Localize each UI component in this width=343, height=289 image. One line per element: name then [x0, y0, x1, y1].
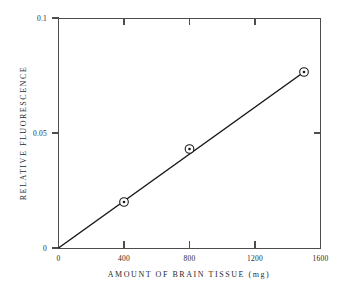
- data-point-marker: [185, 145, 194, 154]
- x-tick-label-1200: 1200: [247, 254, 263, 263]
- marker-dot-800: [188, 148, 191, 151]
- x-tick-label-0: 0: [57, 254, 61, 263]
- data-point-marker: [300, 68, 309, 77]
- fitted-line: [59, 72, 305, 248]
- axes-frame: [59, 18, 321, 249]
- y-axis-title: RELATIVE FLUORESCENCE: [19, 66, 28, 201]
- x-tick-label-400: 400: [118, 254, 130, 263]
- data-point-marker: [120, 198, 129, 207]
- x-axis-title: AMOUNT OF BRAIN TISSUE (mg): [108, 270, 270, 279]
- marker-dot-400: [123, 201, 126, 204]
- y-tick-label-0.1: 0.1: [37, 14, 47, 23]
- chart-figure: 0.1 0.05 0 0 400 800 1200 1600 AMOUNT OF…: [0, 0, 343, 289]
- marker-dot-1500: [303, 71, 306, 74]
- x-axis-ticks-bottom: [59, 241, 321, 248]
- chart-plot-area: 0.1 0.05 0 0 400 800 1200 1600 AMOUNT OF…: [0, 0, 343, 289]
- y-axis-ticks-left: [52, 18, 59, 248]
- x-tick-label-800: 800: [184, 254, 196, 263]
- y-tick-label-0.05: 0.05: [33, 129, 47, 138]
- y-tick-label-0: 0: [43, 244, 47, 253]
- x-tick-label-1600: 1600: [313, 254, 329, 263]
- data-series-line: [59, 72, 305, 248]
